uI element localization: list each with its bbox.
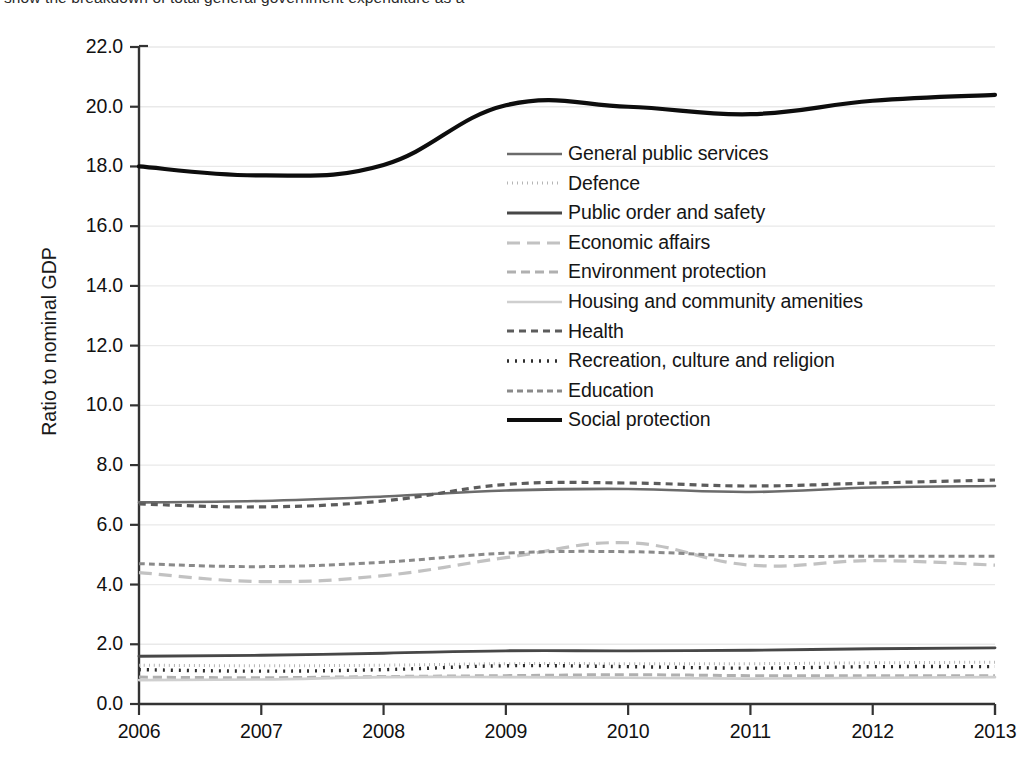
legend-line-swatch	[506, 352, 563, 370]
legend-line-swatch	[506, 411, 563, 429]
legend-item: Environment protection	[506, 257, 946, 287]
legend-item: Education	[506, 376, 946, 406]
y-tick-label: 2.0	[59, 632, 123, 655]
legend-label: General public services	[568, 144, 768, 164]
legend-line-swatch	[506, 174, 563, 192]
legend-line-swatch	[506, 204, 563, 222]
x-tick-label: 2006	[94, 720, 184, 743]
y-tick-label: 12.0	[59, 334, 123, 357]
series-line	[139, 480, 995, 507]
series-line	[139, 666, 995, 672]
legend-item: General public services	[506, 139, 946, 169]
legend-label: Economic affairs	[568, 233, 710, 253]
y-tick-label: 16.0	[59, 214, 123, 237]
legend-item: Housing and community amenities	[506, 287, 946, 317]
y-tick-label: 10.0	[59, 393, 123, 416]
legend-item: Economic affairs	[506, 228, 946, 258]
x-tick-label: 2012	[828, 720, 918, 743]
y-tick-label: 0.0	[59, 692, 123, 715]
series-line	[139, 486, 995, 502]
legend-line-swatch	[506, 382, 563, 400]
y-tick-label: 20.0	[59, 95, 123, 118]
series-line	[139, 551, 995, 566]
legend-line-swatch	[506, 145, 563, 163]
legend-line-swatch	[506, 263, 563, 281]
legend-item: Recreation, culture and religion	[506, 346, 946, 376]
x-tick-label: 2008	[339, 720, 429, 743]
legend-line-swatch	[506, 234, 563, 252]
x-tick-label: 2009	[461, 720, 551, 743]
legend-line-swatch	[506, 322, 563, 340]
x-tick-label: 2011	[705, 720, 795, 743]
legend-label: Recreation, culture and religion	[568, 351, 835, 371]
legend-label: Education	[568, 381, 654, 401]
y-tick-label: 6.0	[59, 513, 123, 536]
legend-label: Housing and community amenities	[568, 292, 863, 312]
y-tick-label: 14.0	[59, 274, 123, 297]
legend-item: Social protection	[506, 405, 946, 435]
legend-item: Health	[506, 317, 946, 347]
y-tick-label: 4.0	[59, 573, 123, 596]
legend-item: Defence	[506, 169, 946, 199]
y-axis-title: Ratio to nominal GDP	[38, 232, 61, 452]
chart-legend: General public servicesDefencePublic ord…	[506, 139, 946, 435]
legend-label: Environment protection	[568, 262, 766, 282]
series-line	[139, 648, 995, 656]
y-tick-label: 22.0	[59, 35, 123, 58]
x-tick-label: 2007	[216, 720, 306, 743]
legend-label: Health	[568, 322, 624, 342]
y-tick-label: 8.0	[59, 453, 123, 476]
legend-label: Defence	[568, 174, 640, 194]
x-tick-label: 2013	[950, 720, 1021, 743]
y-tick-label: 18.0	[59, 154, 123, 177]
legend-item: Public order and safety	[506, 198, 946, 228]
series-line	[139, 662, 995, 666]
legend-line-swatch	[506, 293, 563, 311]
series-line	[139, 543, 995, 582]
x-tick-label: 2010	[583, 720, 673, 743]
legend-label: Public order and safety	[568, 203, 765, 223]
legend-label: Social protection	[568, 410, 710, 430]
